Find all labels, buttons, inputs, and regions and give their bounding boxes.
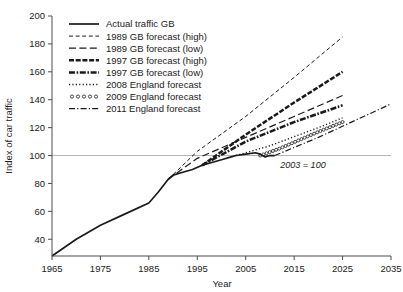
legend-item-5[interactable]: 2008 England forecast	[69, 79, 201, 90]
y-tick-label: 120	[29, 122, 45, 133]
legend-item-7[interactable]: 2011 England forecast	[69, 103, 201, 114]
series-marker	[322, 128, 325, 131]
series-marker	[313, 132, 316, 135]
legend-label: 2008 England forecast	[106, 79, 201, 90]
legend-item-6[interactable]: 2009 England forecast	[70, 91, 201, 102]
legend-label: Actual traffic GB	[106, 18, 174, 29]
series-marker	[284, 144, 287, 147]
y-tick-label: 40	[34, 234, 45, 245]
x-tick-label: 1985	[138, 263, 159, 274]
y-tick-label: 80	[34, 178, 45, 189]
legend-item-0[interactable]: Actual traffic GB	[69, 18, 174, 29]
y-tick-label: 140	[29, 94, 45, 105]
baseline-annotation: 2003 = 100	[279, 160, 325, 170]
legend-label: 1989 GB forecast (low)	[106, 43, 203, 54]
series-marker	[297, 139, 300, 142]
chart-container: 406080100120140160180200 196519751985199…	[0, 0, 403, 292]
x-tick-label: 2005	[235, 263, 256, 274]
legend-item-1[interactable]: 1989 GB forecast (high)	[69, 31, 207, 42]
x-axis-title: Year	[212, 278, 231, 289]
series-marker	[303, 136, 306, 139]
series-marker	[294, 140, 297, 143]
legend-swatch	[70, 95, 73, 98]
x-tick-label: 2035	[380, 263, 401, 274]
y-tick-label: 180	[29, 38, 45, 49]
series-marker	[275, 148, 278, 151]
series-marker	[271, 149, 274, 152]
x-tick-label: 2015	[284, 263, 305, 274]
y-axis-ticks: 406080100120140160180200	[29, 10, 52, 244]
x-tick-label: 2025	[332, 263, 353, 274]
series-marker	[265, 152, 268, 155]
x-tick-label: 1965	[41, 263, 62, 274]
legend-label: 1989 GB forecast (high)	[106, 31, 207, 42]
legend-label: 1997 GB forecast (high)	[106, 55, 207, 66]
series-marker	[319, 129, 322, 132]
series-marker	[338, 122, 341, 125]
chart-legend: Actual traffic GB1989 GB forecast (high)…	[69, 18, 207, 114]
series-marker	[332, 124, 335, 127]
y-axis-title: Index of car traffic	[3, 98, 14, 174]
series-3	[202, 72, 342, 165]
x-tick-label: 1995	[187, 263, 208, 274]
series-marker	[335, 123, 338, 126]
series-marker	[290, 142, 293, 145]
x-tick-label: 1975	[90, 263, 111, 274]
legend-item-3[interactable]: 1997 GB forecast (high)	[69, 55, 207, 66]
series-layer	[52, 37, 391, 256]
series-marker	[325, 127, 328, 130]
legend-label: 2011 England forecast	[106, 103, 201, 114]
series-marker	[287, 143, 290, 146]
series-7	[275, 104, 391, 156]
axes	[52, 16, 391, 256]
series-marker	[300, 138, 303, 141]
y-tick-label: 200	[29, 10, 45, 21]
series-marker	[268, 151, 271, 154]
series-marker	[309, 134, 312, 137]
series-marker	[341, 121, 344, 124]
series-marker	[316, 131, 319, 134]
legend-swatch	[82, 95, 85, 98]
legend-label: 1997 GB forecast (low)	[106, 67, 203, 78]
series-marker	[281, 146, 284, 149]
legend-item-4[interactable]: 1997 GB forecast (low)	[69, 67, 203, 78]
legend-swatch	[88, 95, 91, 98]
y-tick-label: 100	[29, 150, 45, 161]
legend-swatch	[76, 95, 79, 98]
series-marker	[306, 135, 309, 138]
x-axis-ticks: 19651975198519952005201520252035	[41, 256, 401, 274]
legend-label: 2009 England forecast	[106, 91, 201, 102]
series-marker	[328, 126, 331, 129]
legend-item-2[interactable]: 1989 GB forecast (low)	[69, 43, 203, 54]
legend-swatch	[94, 95, 97, 98]
series-0	[52, 153, 275, 256]
y-tick-label: 60	[34, 206, 45, 217]
series-marker	[278, 147, 281, 150]
y-tick-label: 160	[29, 66, 45, 77]
line-chart: 406080100120140160180200 196519751985199…	[0, 0, 403, 292]
